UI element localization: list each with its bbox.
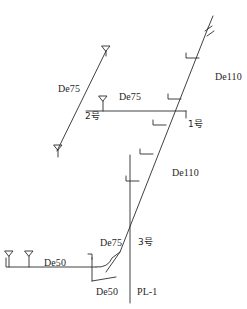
pipe-main-riser-de110 — [106, 28, 208, 272]
pipe-branch-de75-upper — [57, 51, 106, 151]
label-de110-upper: De110 — [215, 72, 242, 82]
label-de75-lower: De75 — [100, 238, 122, 248]
label-node-3: 3号 — [138, 238, 153, 247]
branch-stub-symbols — [88, 53, 199, 259]
label-node-1: 1号 — [188, 120, 203, 129]
label-property-line-pl1: PL-1 — [137, 287, 157, 297]
label-node-2: 2号 — [85, 112, 100, 121]
fixture-symbols — [5, 46, 110, 267]
label-de50-horizontal: De50 — [44, 258, 66, 268]
pipe-de75-base-bend — [96, 252, 120, 267]
pipe-de50-sweep — [92, 277, 116, 281]
label-de50-branch: De50 — [96, 287, 118, 297]
diagram-linework — [0, 0, 247, 309]
label-de75-upper-left: De75 — [58, 84, 80, 94]
label-de75-horizontal: De75 — [119, 92, 141, 102]
label-de110-lower: De110 — [172, 168, 199, 178]
piping-riser-diagram: De75 De75 2号 1号 De110 De110 De75 3号 De50… — [0, 0, 247, 309]
